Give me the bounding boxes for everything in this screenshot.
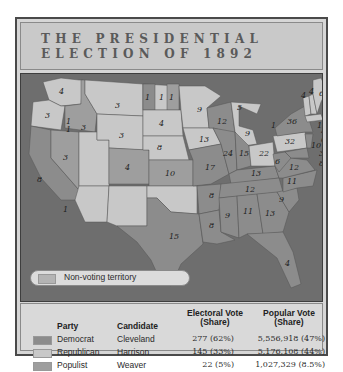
label-ca-rep: 1 bbox=[63, 205, 68, 214]
label-ga: 13 bbox=[265, 209, 275, 218]
header-party: Party bbox=[57, 322, 78, 331]
party-democrat: Democrat bbox=[57, 334, 94, 344]
title-box: THE PRESIDENTIAL ELECTION OF 1892 bbox=[20, 22, 323, 70]
label-me: 6 bbox=[319, 89, 323, 98]
title-line-2: ELECTION OF 1892 bbox=[41, 47, 263, 62]
label-ky: 13 bbox=[251, 169, 261, 178]
label-ny: 36 bbox=[287, 117, 297, 126]
label-oh: 22 bbox=[258, 149, 269, 158]
label-ks: 10 bbox=[165, 169, 175, 178]
label-wy: 3 bbox=[119, 131, 124, 140]
candidate-harrison: Harrison bbox=[117, 347, 149, 357]
title-line-1: THE PRESIDENTIAL bbox=[41, 32, 263, 47]
label-ar: 8 bbox=[209, 191, 214, 200]
label-wi: 12 bbox=[217, 117, 227, 126]
header-popular-line2: (Share) bbox=[253, 318, 325, 327]
label-mt: 3 bbox=[115, 101, 120, 110]
populist-swatch bbox=[33, 362, 52, 371]
label-wa: 4 bbox=[58, 87, 64, 96]
label-il: 24 bbox=[222, 149, 233, 158]
label-ia: 13 bbox=[199, 135, 209, 144]
label-ne: 8 bbox=[157, 143, 162, 152]
republican-swatch bbox=[33, 349, 52, 358]
label-mn: 9 bbox=[197, 105, 202, 114]
non-voting-label: Non-voting territory bbox=[64, 272, 136, 282]
label-nd-2: 1 bbox=[159, 93, 164, 102]
results-table: Party Candidate Electoral Vote (Share) P… bbox=[20, 303, 323, 351]
label-tn: 12 bbox=[245, 185, 255, 194]
state-fl bbox=[247, 232, 301, 288]
candidate-cleveland: Cleveland bbox=[117, 334, 155, 344]
election-map: 4 3 1 8 1 3 3 1 3 3 4 1 1 1 4 8 10 15 9 … bbox=[20, 73, 323, 302]
label-in: 15 bbox=[239, 149, 249, 158]
header-popular: Popular Vote (Share) bbox=[253, 309, 325, 327]
label-nd-1: 1 bbox=[145, 93, 150, 102]
electoral-weaver: 22 (5%) bbox=[171, 360, 234, 370]
label-nc: 11 bbox=[287, 177, 297, 186]
label-sd: 4 bbox=[158, 119, 164, 128]
label-pa: 32 bbox=[285, 137, 295, 146]
label-mo: 17 bbox=[205, 163, 216, 172]
electoral-cleveland: 277 (62%) bbox=[171, 334, 234, 344]
label-ca: 8 bbox=[37, 175, 42, 184]
label-la: 8 bbox=[209, 221, 214, 230]
label-nd-3: 1 bbox=[169, 93, 174, 102]
democrat-swatch bbox=[33, 336, 52, 345]
label-tx: 15 bbox=[169, 232, 179, 241]
party-populist: Populist bbox=[57, 360, 87, 370]
label-id-split: 1 bbox=[66, 125, 71, 134]
label-mi-2: 9 bbox=[245, 129, 250, 138]
label-or: 3 bbox=[45, 111, 50, 120]
label-de: 3 bbox=[319, 149, 323, 158]
label-ms: 9 bbox=[225, 211, 230, 220]
popular-cleveland: 5,556,918 (47%) bbox=[243, 334, 325, 344]
us-map-svg: 4 3 1 8 1 3 3 1 3 3 4 1 1 1 4 8 10 15 9 … bbox=[21, 74, 323, 302]
territory-az bbox=[75, 186, 109, 222]
label-va: 12 bbox=[289, 163, 299, 172]
header-electoral-line2: (Share) bbox=[179, 318, 251, 327]
label-mi-1: 5 bbox=[237, 103, 242, 112]
label-co: 4 bbox=[124, 163, 130, 172]
non-voting-legend: Non-voting territory bbox=[30, 270, 190, 286]
label-nh: 4 bbox=[308, 87, 314, 96]
party-republican: Republican bbox=[57, 347, 100, 357]
label-sc: 9 bbox=[279, 195, 284, 204]
popular-weaver: 1,027,329 (8.5%) bbox=[243, 360, 325, 370]
label-nv: 3 bbox=[63, 153, 68, 162]
non-voting-swatch bbox=[38, 274, 56, 284]
label-vt: 4 bbox=[300, 91, 306, 100]
label-id: 3 bbox=[81, 123, 86, 132]
label-ct: 6 bbox=[321, 135, 323, 144]
map-frame: THE PRESIDENTIAL ELECTION OF 1892 bbox=[15, 17, 328, 356]
electoral-harrison: 145 (33%) bbox=[171, 347, 234, 357]
territory-nm bbox=[107, 186, 147, 226]
label-fl: 4 bbox=[284, 259, 290, 268]
header-candidate: Candidate bbox=[117, 322, 158, 331]
state-ne bbox=[143, 136, 189, 160]
label-al: 11 bbox=[243, 207, 253, 216]
label-md: 8 bbox=[319, 159, 323, 168]
label-ma: 15 bbox=[317, 121, 323, 130]
candidate-weaver: Weaver bbox=[117, 360, 146, 370]
label-wv: 6 bbox=[275, 157, 280, 166]
page-title: THE PRESIDENTIAL ELECTION OF 1892 bbox=[41, 32, 263, 62]
label-oh-split: 1 bbox=[271, 121, 276, 130]
header-electoral: Electoral Vote (Share) bbox=[179, 309, 251, 327]
popular-harrison: 5,176,108 (44%) bbox=[243, 347, 325, 357]
